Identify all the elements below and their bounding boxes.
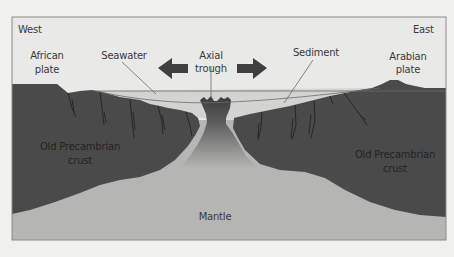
west-crust-label-line1: Old Precambrian bbox=[30, 141, 130, 153]
mantle-label: Mantle bbox=[190, 211, 240, 223]
east-crust-label-line1: Old Precambrian bbox=[345, 149, 445, 161]
rift-cross-section-diagram: West East African plate Seawater Axial t… bbox=[0, 0, 454, 257]
east-label: East bbox=[413, 24, 434, 36]
axial-trough-label-line1: Axial bbox=[192, 50, 230, 62]
west-crust-label-line2: crust bbox=[30, 155, 130, 167]
east-crust-label-line2: crust bbox=[345, 163, 445, 175]
sediment-label: Sediment bbox=[290, 47, 342, 59]
arabian-plate-label-line2: plate bbox=[383, 64, 433, 76]
african-plate-label-line2: plate bbox=[22, 64, 72, 76]
axial-trough-label-line2: trough bbox=[190, 63, 232, 75]
arabian-plate-label-line1: Arabian bbox=[383, 51, 433, 63]
african-plate-label-line1: African bbox=[22, 50, 72, 62]
west-label: West bbox=[18, 24, 42, 36]
seawater-label: Seawater bbox=[97, 50, 151, 62]
